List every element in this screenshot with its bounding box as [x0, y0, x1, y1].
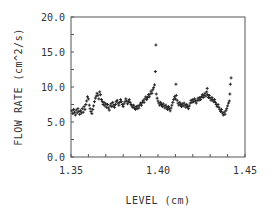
x-tick-label: 1.40 [146, 165, 170, 176]
y-axis-tick-labels: 0.05.010.015.020.0 [41, 12, 65, 163]
x-axis-tick-labels: 1.351.401.45 [59, 165, 257, 176]
data-point-marker [92, 104, 95, 107]
y-tick-label: 20.0 [41, 12, 65, 23]
data-points [70, 44, 232, 117]
data-point-marker [230, 76, 233, 79]
data-point-marker [74, 114, 77, 117]
data-point-marker [93, 100, 96, 103]
x-tick-label: 1.45 [233, 165, 257, 176]
data-point-marker [226, 104, 229, 107]
data-point-marker [91, 108, 94, 111]
y-tick-label: 0.0 [47, 152, 65, 163]
data-point-marker [98, 90, 101, 93]
data-point-marker [155, 93, 158, 96]
scatter-chart: 0.05.010.015.020.0 1.351.401.45 LEVEL (c… [0, 0, 272, 222]
x-tick-label: 1.35 [59, 165, 83, 176]
y-axis-label: FLOW RATE (cm^2/s) [13, 28, 24, 145]
data-point-marker [154, 44, 157, 47]
x-axis-label: LEVEL (cm) [125, 195, 190, 206]
data-point-marker [88, 104, 91, 107]
y-tick-label: 10.0 [41, 82, 65, 93]
data-point-marker [174, 83, 177, 86]
data-point-marker [97, 97, 100, 100]
data-point-marker [81, 107, 84, 110]
data-point-marker [153, 83, 156, 86]
plot-frame [71, 17, 245, 157]
data-point-marker [171, 101, 174, 104]
data-point-marker [83, 108, 86, 111]
data-point-marker [156, 97, 159, 100]
data-point-marker [99, 93, 102, 96]
data-point-marker [85, 100, 88, 103]
data-point-marker [228, 93, 231, 96]
data-point-marker [206, 87, 209, 90]
y-tick-label: 15.0 [41, 47, 65, 58]
data-point-marker [89, 107, 92, 110]
data-point-marker [83, 105, 86, 108]
data-point-marker [170, 104, 173, 107]
data-point-marker [84, 103, 87, 106]
data-point-marker [154, 70, 157, 73]
y-tick-label: 5.0 [47, 117, 65, 128]
data-point-marker [229, 83, 232, 86]
